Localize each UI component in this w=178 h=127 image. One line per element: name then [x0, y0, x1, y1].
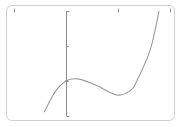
plot-area [0, 0, 178, 127]
y-axis [67, 11, 70, 117]
y-intercept-point [65, 80, 67, 82]
x-ticks [15, 9, 171, 13]
markers [65, 80, 67, 82]
function-curve [44, 11, 159, 112]
